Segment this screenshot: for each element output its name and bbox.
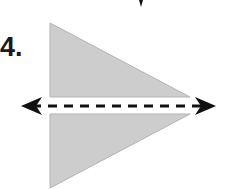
reflection-figure [0,0,233,189]
lower-triangle [50,114,190,188]
upper-triangle [50,23,190,97]
top-arrow-fragment [139,0,143,7]
